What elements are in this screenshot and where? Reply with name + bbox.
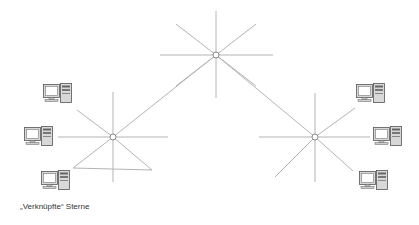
hub-right-node (312, 134, 318, 140)
hub-left-node (110, 134, 116, 140)
computer-icon (44, 84, 72, 103)
computer-icon (357, 84, 385, 103)
computer-icon (25, 127, 53, 146)
link-center-right (216, 55, 315, 137)
computer-icon (42, 171, 70, 190)
linked-star-topology-diagram (0, 0, 419, 225)
link-left-center (113, 55, 216, 137)
hub-links (113, 55, 315, 137)
computer-icon (374, 127, 402, 146)
diagram-caption: „Verknüpfte“ Sterne (20, 202, 89, 211)
computer-icon (360, 171, 388, 190)
hubs (110, 52, 318, 140)
hub-center-node (213, 52, 219, 58)
